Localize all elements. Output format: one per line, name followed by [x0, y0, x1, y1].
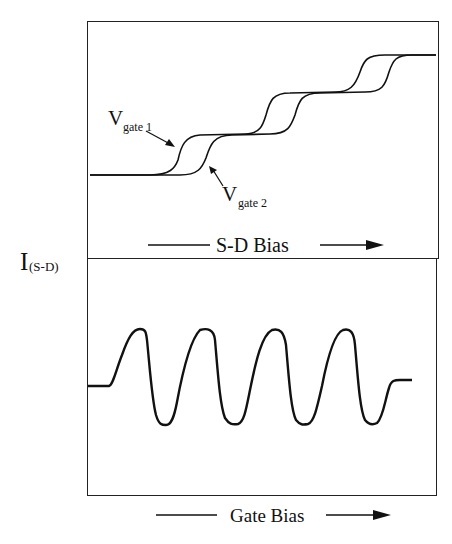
vgate1-label-main: V [108, 106, 123, 130]
top-panel-frame [88, 22, 439, 259]
y-axis-label-main: I [20, 248, 28, 275]
gate-bias-arrowhead-icon [373, 510, 391, 520]
sd-bias-label: S-D Bias [216, 234, 289, 256]
vgate2-label-sub: gate 2 [238, 196, 267, 210]
vgate1-arrowhead-icon [165, 139, 175, 147]
curve-vgate2 [90, 55, 436, 175]
curve-vgate1 [90, 55, 436, 175]
bottom-panel-frame [88, 259, 437, 496]
y-axis-label-sub: (S-D) [29, 259, 59, 274]
diagram-canvas: V gate 1 V gate 2 S-D Bias I (S-D) Gate … [0, 0, 452, 544]
vgate2-label-main: V [222, 182, 237, 206]
curve-oscillation [88, 329, 412, 425]
sd-bias-arrowhead-icon [366, 240, 384, 250]
gate-bias-label: Gate Bias [230, 505, 304, 526]
vgate1-arrow-line [146, 131, 170, 144]
vgate2-arrowhead-icon [209, 166, 217, 174]
